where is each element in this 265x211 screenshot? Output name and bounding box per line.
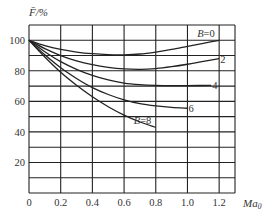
curve-label: 6	[188, 103, 193, 114]
x-tick-label: 0	[26, 197, 31, 208]
curve-labels: B=0246B=8	[134, 28, 226, 126]
x-axis-label: Ma0	[242, 197, 262, 211]
x-axis-label-sub: 0	[258, 202, 262, 211]
y-tick-label: 100	[9, 35, 25, 46]
x-tick-label: 0.2	[54, 197, 67, 208]
x-tick-label: 0.6	[118, 197, 131, 208]
y-tick-label: 20	[15, 157, 26, 168]
y-tick-label: 40	[15, 127, 26, 138]
curve-label: 2	[220, 54, 225, 65]
tick-labels: 00.20.40.60.81.01.220406080100	[9, 35, 225, 208]
y-axis-label: F̄/%	[28, 6, 48, 18]
curve-label: B=8	[134, 115, 152, 126]
curve-label: 4	[212, 80, 218, 91]
x-tick-label: 0.4	[86, 197, 100, 208]
curve-label: B=0	[197, 28, 215, 39]
x-tick-label: 1.2	[213, 197, 226, 208]
x-tick-label: 1.0	[181, 197, 194, 208]
x-axis-label-main: Ma	[242, 197, 258, 209]
y-tick-label: 80	[15, 66, 26, 77]
y-tick-label: 60	[15, 96, 26, 107]
grid	[29, 25, 235, 193]
chart: 00.20.40.60.81.01.220406080100 B=0246B=8…	[0, 0, 265, 211]
x-tick-label: 0.8	[149, 197, 162, 208]
